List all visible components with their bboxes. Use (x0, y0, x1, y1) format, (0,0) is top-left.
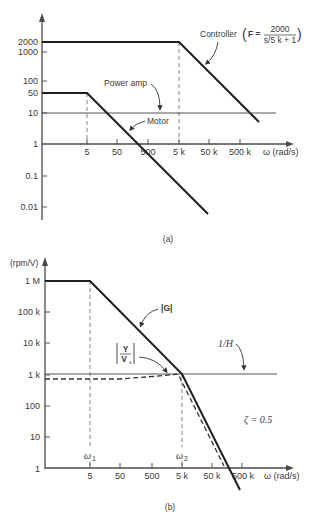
x-tick-label: 50 (112, 147, 122, 157)
omega2-subscript: 2 (184, 455, 188, 462)
one-over-h-label: 1/H (218, 338, 234, 349)
formula-lhs: F = (248, 29, 261, 39)
g-magnitude-curve (45, 281, 240, 490)
controller-leader (207, 42, 218, 63)
y-tick-label: 1000 (18, 47, 38, 57)
caption-b: (b) (165, 502, 176, 512)
x-ticks-a: 5 50 500 5 k 50 k 500 k ω (rad/s) (84, 139, 298, 157)
formula-numerator: 2000 (271, 24, 290, 34)
x-tick-label: 500 k (229, 147, 252, 157)
y-vx-denominator: V (121, 354, 127, 364)
formula-denominator: s/5 k + 1 (264, 35, 297, 45)
omega2-label: ω (176, 450, 183, 461)
paren-open: ( (242, 26, 247, 42)
one-over-h-leader (236, 344, 244, 368)
chart-a: 2000 1000 100 50 10 1 0.1 0.01 5 50 500 … (18, 13, 302, 244)
y-axis-label-b: (rpm/V) (10, 258, 39, 268)
y-tick-label: 1 (33, 139, 38, 149)
x-tick-label: 50 k (200, 147, 218, 157)
y-tick-label: 0.01 (20, 202, 38, 212)
controller-curve (42, 42, 259, 122)
y-tick-label: 100 k (18, 307, 41, 317)
g-label: |G| (161, 303, 172, 313)
y-tick-label: 1 M (25, 276, 40, 286)
y-axis-arrow-a (39, 13, 45, 22)
y-tick-label: 100 (23, 76, 38, 86)
y-tick-label: 0.1 (25, 171, 38, 181)
g-leader (141, 309, 158, 325)
power-amp-leader (151, 84, 160, 108)
y-tick-label: 2000 (18, 37, 38, 47)
motor-label: Motor (147, 116, 169, 126)
x-tick-label: 50 k (203, 471, 221, 481)
x-ticks-b: 5 50 500 5 k 50 k 500 k ω (rad/s) (87, 463, 299, 481)
bode-figure: 2000 1000 100 50 10 1 0.1 0.01 5 50 500 … (0, 0, 312, 522)
y-vx-magnitude-curve (45, 374, 224, 466)
motor-leader (131, 121, 145, 129)
omega1-label: ω (84, 450, 91, 461)
y-vx-label: Y V x (117, 343, 134, 365)
caption-a: (a) (163, 234, 174, 244)
x-tick-label: 500 (144, 471, 159, 481)
y-axis-arrow-b (42, 257, 48, 266)
zeta-label: ζ = 0.5 (244, 414, 272, 426)
omega1-subscript: 1 (92, 455, 96, 462)
paren-close: ) (297, 26, 302, 42)
controller-label: Controller (200, 29, 237, 39)
x-tick-label: 5 (84, 147, 89, 157)
y-tick-label: 10 (30, 432, 40, 442)
y-tick-label: 1 k (28, 370, 41, 380)
x-tick-label: 5 k (173, 147, 186, 157)
power-amp-label: Power amp (104, 78, 147, 88)
x-tick-label: 5 (87, 471, 92, 481)
y-vx-leader (139, 357, 166, 371)
y-tick-label: 50 (28, 88, 38, 98)
x-tick-label: 5 k (176, 471, 189, 481)
x-axis-label: ω (rad/s) (263, 147, 299, 157)
y-vx-numerator: Y (123, 344, 129, 354)
y-tick-label: 1 (35, 464, 40, 474)
y-tick-label: 10 (28, 108, 38, 118)
x-axis-label: ω (rad/s) (264, 471, 300, 481)
y-tick-label: 100 (25, 401, 40, 411)
x-tick-label: 50 (115, 471, 125, 481)
y-tick-label: 10 k (23, 338, 41, 348)
chart-b: (rpm/V) 1 M 100 k 10 k 1 k 100 10 1 (10, 257, 300, 512)
y-vx-denominator-sub: x (129, 359, 132, 365)
